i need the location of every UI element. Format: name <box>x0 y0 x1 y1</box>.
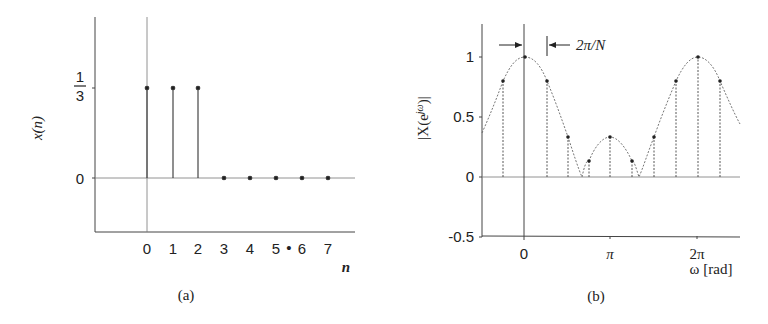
svg-text:-0.5: -0.5 <box>448 228 474 245</box>
a-xticks: 0 1 2 3 4 5 • 6 7 <box>143 239 332 257</box>
svg-text:π: π <box>606 246 614 262</box>
b-x-axis <box>482 236 740 237</box>
b-xticks: 0 π 2π <box>520 245 705 262</box>
a-ytick-zero: 0 <box>76 170 84 187</box>
b-ylabel: |X(ejω)| <box>414 96 432 139</box>
svg-text:0: 0 <box>466 168 474 185</box>
svg-text:2π: 2π <box>689 246 705 262</box>
figure: 1 3 0 x(n) 0 1 2 3 4 5 • 6 7 n (a) <box>0 0 768 324</box>
a-caption: (a) <box>178 287 195 304</box>
b-spacing-annotation: 2π/N <box>499 36 606 56</box>
a-ylabel: x(n) <box>29 116 46 141</box>
svg-text:•: • <box>286 239 291 256</box>
svg-text:4: 4 <box>246 240 254 257</box>
svg-text:0: 0 <box>520 245 528 262</box>
svg-text:6: 6 <box>298 240 306 257</box>
svg-text:0: 0 <box>143 240 151 257</box>
svg-text:7: 7 <box>324 240 332 257</box>
svg-text:2: 2 <box>194 240 202 257</box>
svg-text:2π/N: 2π/N <box>576 37 606 53</box>
svg-text:1: 1 <box>169 240 177 257</box>
panel-b: 2π/N 1 0.5 0 -0.5 |X(ejω)| 0 π 2π ω [rad… <box>414 24 740 305</box>
panel-a: 1 3 0 x(n) 0 1 2 3 4 5 • 6 7 n (a) <box>29 17 355 304</box>
b-caption: (b) <box>587 288 605 305</box>
a-ytick-den: 3 <box>76 87 84 104</box>
b-sample-points <box>501 55 722 163</box>
b-magnitude-curve <box>482 57 740 177</box>
b-samples <box>503 57 720 177</box>
svg-text:0.5: 0.5 <box>453 108 474 125</box>
a-xlabel: n <box>342 259 350 275</box>
svg-text:3: 3 <box>220 240 228 257</box>
a-ytick-num: 1 <box>76 68 84 85</box>
a-stems <box>145 86 330 180</box>
svg-text:1: 1 <box>466 48 474 65</box>
svg-text:5: 5 <box>272 240 280 257</box>
b-xlabel: ω [rad] <box>690 261 733 277</box>
b-yticks: 1 0.5 0 -0.5 <box>448 48 474 245</box>
